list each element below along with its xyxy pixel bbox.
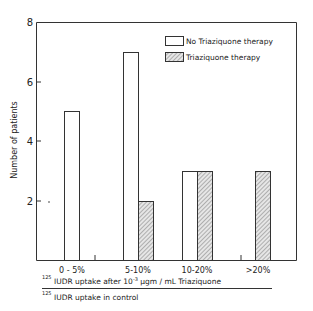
legend-swatch-therapy: [166, 53, 184, 62]
bar-5-10-therapy: [139, 202, 154, 261]
x-label-line-2: IUDR uptake in control: [54, 293, 138, 302]
y-tick-6: 6: [27, 77, 33, 88]
x-axis-ticks: [95, 255, 241, 260]
y-tick-4: 4: [27, 136, 33, 147]
x-category-3: >20%: [246, 266, 271, 275]
bar-10-20-therapy: [198, 172, 213, 261]
x-label-sup-1: 125: [42, 274, 52, 280]
bar-5-10-no-therapy: [124, 53, 139, 261]
bar-gt20-therapy: [256, 172, 271, 261]
stray-dot: [48, 201, 50, 203]
bar-chart: 8 6 4 2 Number of patients No Triaziquon…: [0, 0, 313, 311]
legend-label-no-therapy: No Triaziquone therapy: [186, 37, 273, 46]
x-category-0: 0 - 5%: [59, 266, 85, 275]
x-label-line-1: IUDR uptake after 10-3 µgm / mL Triaziqu…: [54, 276, 221, 286]
y-tick-2: 2: [27, 196, 33, 207]
bar-10-20-no-therapy: [183, 172, 198, 261]
legend: No Triaziquone therapy Triaziquone thera…: [166, 37, 274, 63]
bar-0-5-no-therapy: [65, 112, 80, 261]
bars: [65, 53, 271, 261]
x-category-2: 10-20%: [182, 266, 213, 275]
legend-swatch-no-therapy: [166, 37, 184, 46]
y-axis-label: Number of patients: [10, 101, 19, 179]
legend-label-therapy: Triaziquone therapy: [185, 53, 261, 62]
x-label-sup-2: 125: [42, 290, 52, 296]
y-tick-8: 8: [27, 17, 33, 28]
x-category-1: 5-10%: [125, 266, 151, 275]
